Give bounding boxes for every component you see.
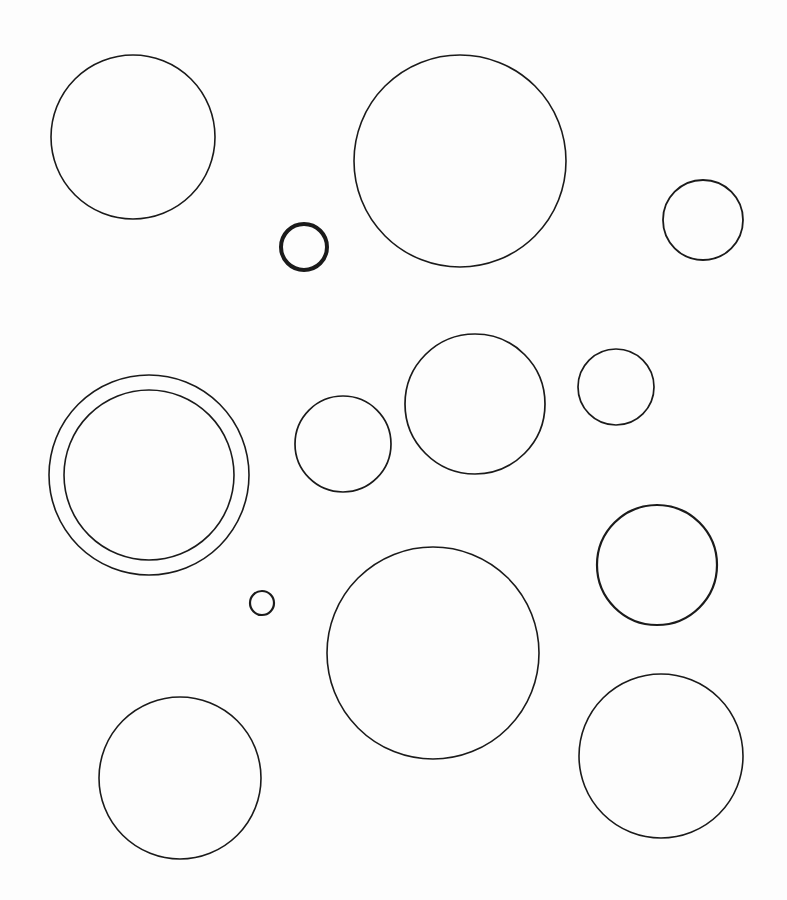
circle-mid-right — [578, 349, 654, 425]
circle-small-thick — [281, 224, 327, 270]
circle-bottom-center-large — [327, 547, 539, 759]
circle-top-left — [51, 55, 215, 219]
circle-double-inner — [64, 390, 234, 560]
circles-diagram — [0, 0, 787, 900]
circle-mid-center — [405, 334, 545, 474]
circle-bottom-right — [579, 674, 743, 838]
circle-double-outer — [49, 375, 249, 575]
scanned-page — [0, 0, 787, 900]
circle-mid-left — [295, 396, 391, 492]
circle-tiny — [250, 591, 274, 615]
circle-top-right — [663, 180, 743, 260]
circle-top-center-large — [354, 55, 566, 267]
circle-bottom-left — [99, 697, 261, 859]
circle-right-medium — [597, 505, 717, 625]
